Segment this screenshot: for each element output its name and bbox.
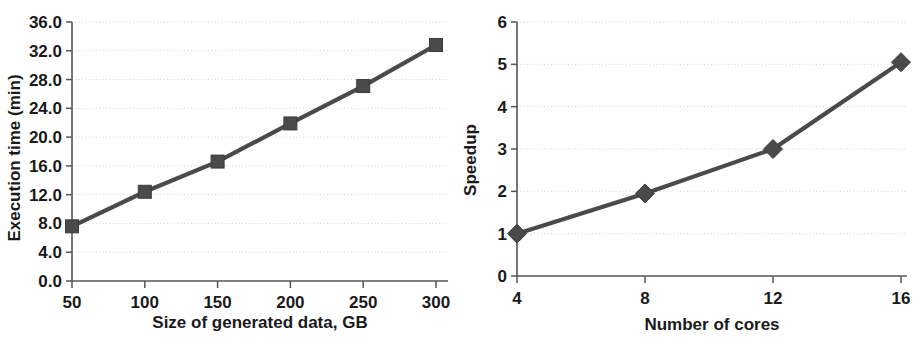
data-point-marker xyxy=(357,80,370,93)
data-series-line xyxy=(517,62,901,233)
x-axis-title: Number of cores xyxy=(644,315,779,334)
x-tick-label: 50 xyxy=(63,293,82,312)
y-tick-label: 2 xyxy=(498,182,507,201)
x-tick-label: 150 xyxy=(203,293,231,312)
data-point-marker xyxy=(508,224,527,243)
y-tick-label: 5 xyxy=(498,55,507,74)
y-tick-label: 16.0 xyxy=(29,157,62,176)
y-tick-label: 1 xyxy=(498,225,507,244)
x-tick-label: 200 xyxy=(276,293,304,312)
execution-time-plot: 0.04.08.012.016.020.024.028.032.036.0501… xyxy=(0,0,460,363)
execution-time-chart-panel: 0.04.08.012.016.020.024.028.032.036.0501… xyxy=(0,0,460,363)
figure-row: 0.04.08.012.016.020.024.028.032.036.0501… xyxy=(0,0,921,363)
y-tick-label: 20.0 xyxy=(29,128,62,147)
y-tick-label: 12.0 xyxy=(29,186,62,205)
y-tick-label: 0 xyxy=(498,267,507,286)
data-point-marker xyxy=(138,185,151,198)
y-tick-label: 8.0 xyxy=(38,214,62,233)
y-axis-title: Speedup xyxy=(461,124,480,196)
data-point-marker xyxy=(430,39,443,52)
y-tick-label: 4.0 xyxy=(38,243,62,262)
y-tick-label: 6 xyxy=(498,13,507,32)
x-tick-label: 8 xyxy=(640,289,649,308)
data-series-line xyxy=(72,45,436,226)
y-tick-label: 0.0 xyxy=(38,272,62,291)
x-tick-label: 100 xyxy=(131,293,159,312)
data-point-marker xyxy=(636,184,655,203)
x-axis-title: Size of generated data, GB xyxy=(152,313,367,332)
data-point-marker xyxy=(66,220,79,233)
y-tick-label: 24.0 xyxy=(29,99,62,118)
y-tick-label: 32.0 xyxy=(29,42,62,61)
x-tick-label: 250 xyxy=(349,293,377,312)
x-tick-label: 4 xyxy=(512,289,522,308)
y-axis-title: Execution time (min) xyxy=(5,74,24,241)
data-point-marker xyxy=(284,117,297,130)
y-tick-label: 36.0 xyxy=(29,13,62,32)
x-tick-label: 16 xyxy=(892,289,911,308)
y-tick-label: 4 xyxy=(498,98,508,117)
speedup-plot: 0123456481216Number of coresSpeedup xyxy=(460,0,921,363)
y-tick-label: 28.0 xyxy=(29,71,62,90)
x-tick-label: 12 xyxy=(764,289,783,308)
y-tick-label: 3 xyxy=(498,140,507,159)
data-point-marker xyxy=(211,155,224,168)
speedup-chart-panel: 0123456481216Number of coresSpeedup xyxy=(460,0,921,363)
x-tick-label: 300 xyxy=(422,293,450,312)
